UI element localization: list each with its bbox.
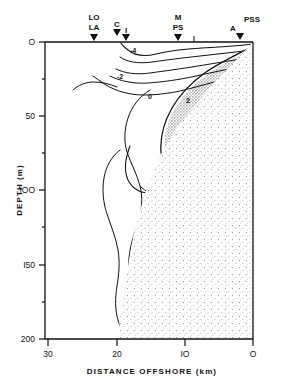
station-la-label: LA [89, 23, 100, 32]
x-tick-label-20: 20 [112, 349, 122, 359]
y-tick-label-150: I50 [23, 260, 35, 270]
station-a-label: A [230, 24, 236, 33]
x-tick-label-30: 30 [43, 349, 53, 359]
y-axis-title: DEPTH (m) [15, 164, 24, 216]
oceanographic-cross-section-figure: O 50 IOO I50 200 30 20 IO O DISTANCE OFF… [0, 0, 288, 386]
station-marker-a [236, 33, 244, 40]
x-tick-label-10: IO [181, 349, 190, 359]
station-marker-m-ps [174, 34, 182, 41]
contour-label-two: 2 [186, 97, 190, 104]
station-marker-c [113, 29, 121, 36]
station-markers-group: LO LA C I M PS A PSS [88, 13, 260, 42]
station-marker-lo-la [90, 34, 98, 41]
station-marker-i [122, 34, 130, 41]
cross-section-svg: O 50 IOO I50 200 30 20 IO O DISTANCE OFF… [0, 0, 288, 386]
station-lo-label: LO [88, 13, 99, 22]
contour-minus2-fragment [73, 82, 117, 90]
station-m-label: M [175, 13, 182, 22]
y-axis-ticks [39, 42, 45, 339]
station-i-label: I [125, 26, 127, 35]
x-axis-title: DISTANCE OFFSHORE (km) [87, 367, 217, 376]
contour-label-minus4: -4 [130, 47, 136, 54]
station-c-label: C [114, 20, 120, 29]
contour-labels-group: -4 -2 0 2 [117, 47, 190, 104]
x-tick-label-0: O [250, 349, 257, 359]
contour-label-zero: 0 [148, 93, 152, 100]
station-pss-label: PSS [244, 15, 261, 24]
y-tick-label-200: 200 [21, 334, 35, 344]
x-axis-ticks [48, 339, 253, 346]
contour-minus4 [121, 43, 253, 55]
contour-label-minus2: -2 [117, 73, 123, 80]
x-axis-tick-labels: 30 20 IO O [43, 349, 256, 359]
station-ps-label: PS [173, 23, 184, 32]
y-tick-label-50: 50 [26, 111, 36, 121]
y-tick-label-0: O [28, 37, 35, 47]
